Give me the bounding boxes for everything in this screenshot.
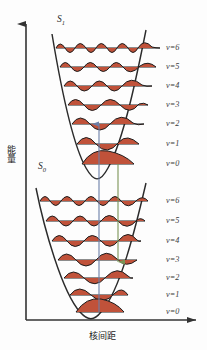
vib-level-lower-4 xyxy=(52,235,141,247)
upper-state-levels xyxy=(56,43,160,164)
level-label-upper-6: v=6 xyxy=(166,43,179,52)
level-label-lower-1: v=1 xyxy=(166,290,179,299)
level-label-lower-3: v=3 xyxy=(166,255,179,264)
lower-state-levels xyxy=(40,197,148,313)
vib-level-lower-0 xyxy=(76,299,124,312)
level-label-lower-6: v=6 xyxy=(166,196,179,205)
y-axis-label: 能量 xyxy=(5,145,18,163)
state-label-s0: S0 xyxy=(38,161,46,173)
level-label-lower-0: v=0 xyxy=(166,307,179,316)
vib-level-lower-3 xyxy=(58,253,137,266)
vib-level-upper-6 xyxy=(56,43,160,53)
x-axis-label: 核间距 xyxy=(89,329,116,342)
vib-level-lower-6 xyxy=(40,197,148,206)
level-label-lower-2: v=2 xyxy=(166,273,179,282)
vib-level-upper-0 xyxy=(82,151,134,164)
level-label-upper-5: v=5 xyxy=(166,62,179,71)
level-label-upper-3: v=3 xyxy=(166,100,179,109)
state-label-s1: S1 xyxy=(57,14,65,26)
vib-level-upper-5 xyxy=(60,63,156,72)
vib-level-upper-1 xyxy=(77,138,139,151)
vib-level-lower-5 xyxy=(46,216,145,227)
level-label-upper-1: v=1 xyxy=(166,139,179,148)
level-label-upper-4: v=4 xyxy=(166,81,179,90)
level-label-upper-2: v=2 xyxy=(166,119,179,128)
figure-canvas: S1 S0 v=6 v=5 v=4 v=3 v=2 v=1 v=0 v=6 v=… xyxy=(0,0,207,350)
level-label-lower-4: v=4 xyxy=(166,236,179,245)
vib-level-upper-3 xyxy=(68,100,148,111)
vib-level-upper-2 xyxy=(72,117,144,130)
vib-level-upper-4 xyxy=(64,80,152,91)
level-label-upper-0: v=0 xyxy=(166,159,179,168)
level-label-lower-5: v=5 xyxy=(166,216,179,225)
